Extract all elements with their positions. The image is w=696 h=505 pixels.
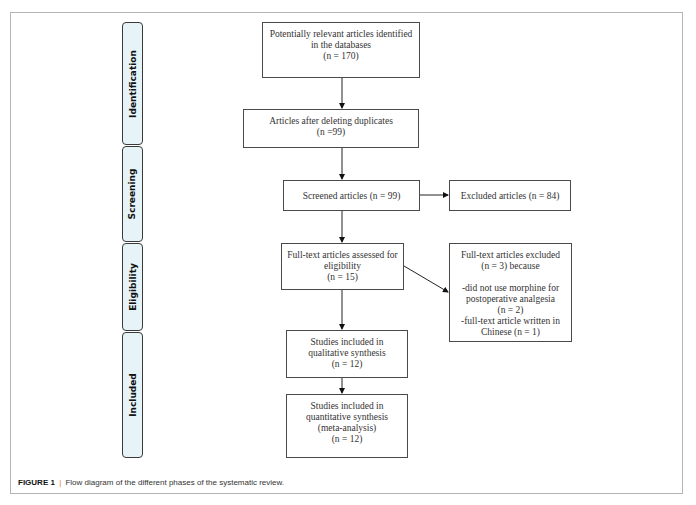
box-fulltext-excluded: Full-text articles excluded (n = 3) beca… — [449, 243, 572, 342]
box-quantitative: Studies included in quantitative synthes… — [286, 394, 408, 458]
caption-separator: | — [59, 478, 61, 487]
box-text: Screened articles (n = 99) — [303, 191, 401, 202]
box-text: (n = 2) — [498, 305, 524, 316]
box-text: eligibility — [324, 261, 361, 272]
box-deduplicated: Articles after deleting duplicates (n =9… — [243, 109, 419, 148]
box-text: -full-text article written in — [461, 316, 560, 327]
box-qualitative: Studies included in qualitative synthesi… — [286, 330, 408, 378]
box-text: (n = 12) — [332, 359, 363, 370]
figure-caption: FIGURE 1 | Flow diagram of the different… — [18, 478, 284, 487]
box-text: Studies included in — [311, 337, 384, 348]
box-text: quantitative synthesis — [306, 412, 388, 423]
box-text: (n = 3) because — [481, 261, 539, 272]
box-fulltext-assessed: Full-text articles assessed for eligibil… — [281, 243, 404, 290]
box-text: Full-text articles assessed for — [287, 250, 398, 261]
box-text: (meta-analysis) — [318, 423, 377, 434]
box-text: qualitative synthesis — [308, 348, 385, 359]
box-screened: Screened articles (n = 99) — [283, 180, 420, 211]
box-text: Studies included in — [311, 401, 384, 412]
box-text: postoperative analgesia — [466, 294, 555, 305]
box-text: Full-text articles excluded — [461, 250, 560, 261]
box-text: in the databases — [311, 40, 371, 51]
box-text: -did not use morphine for — [462, 283, 559, 294]
box-text: Articles after deleting duplicates — [269, 116, 393, 127]
box-text: (n = 12) — [332, 434, 363, 445]
box-text: Excluded articles (n = 84) — [461, 191, 560, 202]
caption-text: Flow diagram of the different phases of … — [65, 478, 284, 487]
box-identified: Potentially relevant articles identified… — [262, 22, 420, 78]
box-text: (n =99) — [317, 127, 345, 138]
box-excluded: Excluded articles (n = 84) — [449, 180, 571, 211]
box-text: Chinese (n = 1) — [481, 327, 540, 338]
box-text: (n = 15) — [327, 272, 358, 283]
box-text: Potentially relevant articles identified — [270, 29, 413, 40]
box-text: (n = 170) — [323, 51, 358, 62]
caption-label: FIGURE 1 — [18, 478, 55, 487]
